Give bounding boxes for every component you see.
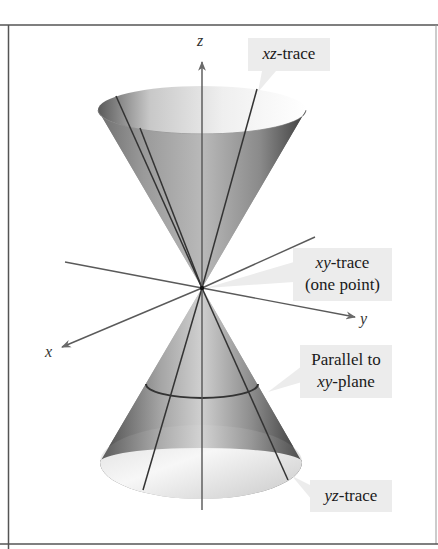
callout-var: xy: [317, 372, 332, 391]
z-axis-label: z: [197, 32, 203, 50]
callout-text-line2: (one point): [299, 274, 386, 296]
callout-var: xz: [263, 44, 277, 63]
y-axis-label: y: [360, 310, 367, 328]
callout-text: -trace: [331, 253, 370, 272]
callout-text: -trace: [339, 486, 378, 505]
callout-text-line1: Parallel to: [306, 349, 386, 371]
lower-cone: [100, 288, 302, 499]
parallel-pointer: [268, 366, 302, 392]
yz-pointer: [292, 476, 312, 500]
xy-trace-callout: xy-trace (one point): [293, 248, 392, 301]
yz-trace-callout: yz-trace: [310, 480, 392, 512]
callout-text: -trace: [277, 44, 316, 63]
callout-text: -plane: [332, 372, 374, 391]
parallel-plane-callout: Parallel to xy-plane: [300, 345, 392, 398]
callout-var: xy: [316, 253, 331, 272]
xz-trace-callout: xz-trace: [248, 38, 330, 71]
vertex-point: [200, 286, 204, 290]
double-cone-figure: z y x xz-trace xy-trace (one point) Para…: [0, 0, 438, 549]
callout-var: yz: [325, 486, 339, 505]
xz-pointer: [258, 71, 276, 92]
x-axis-label: x: [45, 343, 52, 361]
